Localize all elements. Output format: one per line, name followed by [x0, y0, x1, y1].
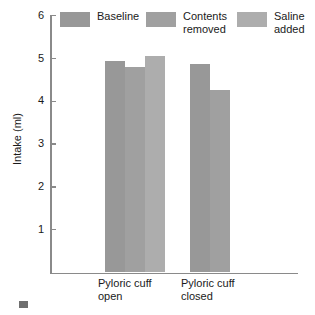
bar [145, 56, 165, 273]
x-axis-label-pyloric-cuff-closed: Pyloric cuff closed [181, 277, 235, 302]
bar [190, 64, 210, 272]
bar [125, 67, 145, 272]
plot-area [0, 0, 315, 315]
bar [105, 61, 125, 272]
corner-mark [19, 301, 28, 308]
bar-chart: Baseline Contents removed Saline added I… [0, 0, 315, 315]
x-axis-label-pyloric-cuff-open: Pyloric cuff open [98, 277, 152, 302]
bar [210, 90, 230, 273]
